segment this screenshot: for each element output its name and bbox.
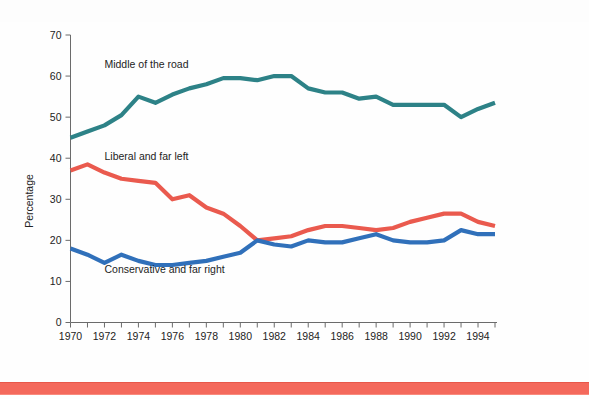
x-tick-label: 1970: [59, 330, 83, 342]
x-tick-label: 1986: [331, 330, 355, 342]
x-tick-label: 1992: [432, 330, 456, 342]
y-tick-label: 60: [50, 70, 62, 82]
x-tick-label: 1988: [364, 330, 388, 342]
x-tick-label: 1994: [466, 330, 490, 342]
y-tick-label: 10: [50, 275, 62, 287]
series-annotations-group: Middle of the roadLiberal and far leftCo…: [104, 58, 224, 275]
x-tick-label: 1980: [229, 330, 253, 342]
y-tick-label: 50: [50, 111, 62, 123]
x-tick-label: 1976: [161, 330, 185, 342]
x-tick-label: 1982: [263, 330, 287, 342]
series-annotation-0: Middle of the road: [104, 58, 188, 70]
x-tick-label: 1984: [297, 330, 321, 342]
chart-page: 010203040506070 197019721974197619781980…: [0, 0, 589, 399]
x-tick-label: 1978: [195, 330, 219, 342]
series-line-0: [71, 76, 496, 138]
y-ticks-group: 010203040506070: [50, 29, 71, 329]
y-axis-title: Percentage: [23, 174, 35, 228]
series-lines-group: [71, 76, 496, 265]
y-tick-label: 30: [50, 193, 62, 205]
y-tick-label: 20: [50, 234, 62, 246]
y-tick-label: 0: [56, 316, 62, 328]
x-ticks-group: 1970197219741976197819801982198419861988…: [59, 323, 495, 342]
x-tick-label: 1990: [398, 330, 422, 342]
y-tick-label: 70: [50, 29, 62, 41]
series-line-1: [71, 164, 496, 240]
line-chart-figure: 010203040506070 197019721974197619781980…: [0, 0, 589, 360]
chart-svg: 010203040506070 197019721974197619781980…: [0, 0, 589, 360]
x-tick-label: 1972: [93, 330, 117, 342]
x-tick-label: 1974: [127, 330, 151, 342]
series-annotation-2: Conservative and far right: [104, 263, 224, 275]
series-annotation-1: Liberal and far left: [104, 150, 188, 162]
y-tick-label: 40: [50, 152, 62, 164]
y-axis-title-group: Percentage: [23, 174, 35, 228]
footer-accent-rule: [0, 382, 589, 395]
